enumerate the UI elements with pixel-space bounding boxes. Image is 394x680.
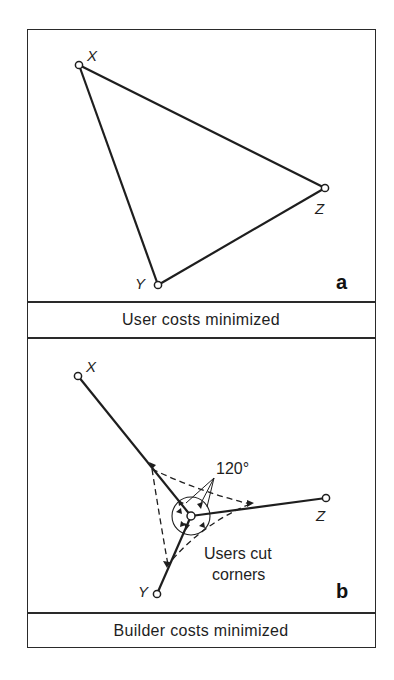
panel-a-triangle: [79, 65, 325, 285]
arrow-z-leg-icon: [247, 500, 254, 507]
users-cut-corners-line2: corners: [212, 566, 265, 583]
panel-a-label-x: X: [86, 47, 98, 64]
vertex-z-icon: [322, 494, 329, 501]
panel-a-label-y: Y: [135, 275, 146, 292]
leg-x: [78, 376, 191, 516]
vertex-y-icon: [154, 281, 161, 288]
panel-b-legs: [78, 376, 326, 594]
leg-z: [191, 498, 326, 516]
vertex-y-icon: [153, 590, 160, 597]
figure: User costs minimized Builder costs minim…: [0, 0, 394, 680]
edge-y-z: [158, 188, 325, 285]
panel-b-vertices: [74, 372, 329, 597]
users-cut-corners-line1: Users cut: [204, 545, 272, 562]
panel-a-label-z: Z: [314, 200, 325, 217]
panel-a-vertices: [75, 61, 328, 288]
panel-b-label-x: X: [85, 358, 97, 375]
vertex-x-icon: [75, 61, 82, 68]
vertex-z-icon: [321, 184, 328, 191]
junction-icon: [187, 512, 195, 520]
vertex-x-icon: [74, 372, 81, 379]
panel-b-label-y: Y: [138, 583, 149, 600]
panel-b-label-z: Z: [315, 507, 326, 524]
angle-annotation: 120°: [216, 460, 249, 477]
diagram-svg: X Y Z: [0, 0, 394, 680]
